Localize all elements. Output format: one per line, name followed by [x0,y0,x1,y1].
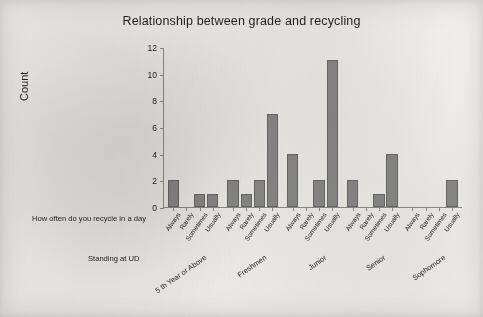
y-tick [160,48,164,49]
x-tick [353,207,354,211]
category-label: Always [344,211,362,232]
y-tick-label: 10 [148,70,157,80]
y-tick-label: 4 [152,150,157,160]
y-tick-label: 12 [148,43,157,53]
bar [168,180,179,207]
x-tick [452,207,453,211]
group-label: Senior [365,253,388,273]
x-tick [306,207,307,211]
bar [386,154,397,207]
x-tick [426,207,427,211]
y-tick [160,208,164,209]
bar [287,154,298,207]
y-tick [160,128,164,129]
y-tick-label: 6 [152,123,157,133]
x-tick [293,207,294,211]
x-tick [246,207,247,211]
bar [241,194,252,207]
group-label: Sophomore [411,253,447,282]
y-tick-label: 0 [152,203,157,213]
x-tick [213,207,214,211]
category-label: Always [284,211,302,232]
y-tick [160,155,164,156]
x-tick [332,207,333,211]
x-tick [200,207,201,211]
category-label: Always [164,211,182,232]
bar [194,194,205,207]
x-tick [259,207,260,211]
x-tick [412,207,413,211]
x-tick [186,207,187,211]
y-tick-label: 8 [152,96,157,106]
y-tick [160,75,164,76]
bar [267,114,278,207]
category-label: Always [403,211,421,232]
bar [207,194,218,207]
x-axis-line [163,207,462,208]
bar [347,180,358,207]
recycle-axis-caption: How often do you recycle in a day [32,214,146,223]
group-label: Junior [306,253,328,272]
chart-title: Relationship between grade and recycling [0,14,483,28]
bar [254,180,265,207]
group-label: Freshmen [236,253,268,279]
x-tick [379,207,380,211]
bar [327,60,338,207]
y-tick [160,181,164,182]
bar [227,180,238,207]
standing-axis-caption: Standing at UD [88,254,140,263]
category-label: Always [224,211,242,232]
x-tick [366,207,367,211]
y-axis-title: Count [18,72,30,101]
plot-area: 024681012 [163,48,462,208]
bar [313,180,324,207]
x-tick [173,207,174,211]
x-tick [272,207,273,211]
bar [373,194,384,207]
x-tick [319,207,320,211]
x-tick [439,207,440,211]
y-tick-label: 2 [152,176,157,186]
x-tick [392,207,393,211]
bar [446,180,457,207]
group-label: 5 th Year or Above [153,253,208,295]
y-tick [160,101,164,102]
x-tick [233,207,234,211]
